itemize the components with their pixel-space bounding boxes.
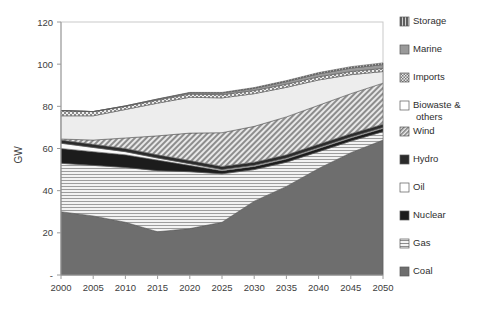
legend-label: Storage <box>413 15 446 26</box>
legend-swatch <box>400 17 409 26</box>
y-axis-title: GW <box>13 146 24 164</box>
legend-swatch <box>400 183 409 192</box>
x-tick-label: 2040 <box>308 282 329 293</box>
x-tick-label: 2015 <box>147 282 168 293</box>
legend-item-marine[interactable]: Marine <box>400 43 442 54</box>
legend-label: Marine <box>413 43 442 54</box>
y-tick-label: 100 <box>37 59 53 70</box>
legend-label: Imports <box>413 71 445 82</box>
legend-swatch <box>400 101 409 110</box>
legend-item-wind[interactable]: Wind <box>400 125 435 136</box>
legend-swatch <box>400 73 409 82</box>
x-tick-label: 2020 <box>179 282 200 293</box>
x-tick-label: 2000 <box>50 282 71 293</box>
legend-label: Oil <box>413 181 425 192</box>
legend-label-line2: others <box>416 111 443 122</box>
x-tick-label: 2030 <box>244 282 265 293</box>
x-tick-label: 2045 <box>340 282 361 293</box>
stacked-area-chart: -20406080100120 200020052010201520202025… <box>0 0 491 322</box>
y-tick-label: 40 <box>42 185 53 196</box>
x-tick-label: 2035 <box>276 282 297 293</box>
x-tick-label: 2010 <box>115 282 136 293</box>
y-tick-label: 120 <box>37 17 53 28</box>
legend-item-imports[interactable]: Imports <box>400 71 445 82</box>
legend-swatch <box>400 127 409 136</box>
legend-swatch <box>400 155 409 164</box>
x-tick-label: 2025 <box>211 282 232 293</box>
x-tick-label: 2005 <box>83 282 104 293</box>
legend-swatch <box>400 239 409 248</box>
legend-swatch <box>400 211 409 220</box>
legend-label: Biowaste & <box>413 99 461 110</box>
x-tick-label: 2050 <box>372 282 393 293</box>
y-tick-label: 80 <box>42 101 53 112</box>
legend-label: Gas <box>413 237 431 248</box>
chart-canvas: -20406080100120 200020052010201520202025… <box>0 0 491 322</box>
legend-label: Nuclear <box>413 209 446 220</box>
y-tick-label: 20 <box>42 227 53 238</box>
y-tick-label: 60 <box>42 143 53 154</box>
y-tick-label: - <box>50 270 53 281</box>
legend-swatch <box>400 45 409 54</box>
legend-label: Coal <box>413 265 433 276</box>
legend-label: Hydro <box>413 153 438 164</box>
legend-swatch <box>400 267 409 276</box>
legend-label: Wind <box>413 125 435 136</box>
